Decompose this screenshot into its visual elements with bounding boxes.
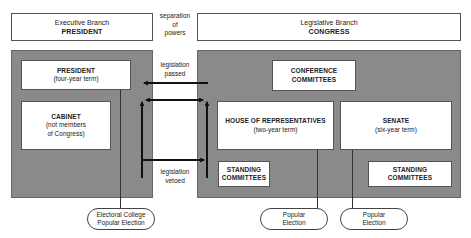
house-election-line-2: Election: [282, 219, 305, 228]
senate-election-line-2: Election: [362, 219, 385, 228]
electoral-college-line-2: Popular Election: [97, 219, 144, 228]
senate-election-line-1: Popular: [363, 211, 385, 220]
electoral-college-pill: Electoral College Popular Election: [87, 208, 155, 230]
house-election-line-1: Popular: [283, 211, 305, 220]
house-popular-election-pill: Popular Election: [260, 208, 328, 230]
electoral-college-line-1: Electoral College: [96, 211, 145, 220]
senate-popular-election-pill: Popular Election: [340, 208, 408, 230]
legislation-flow-arrows-icon: [0, 0, 471, 238]
